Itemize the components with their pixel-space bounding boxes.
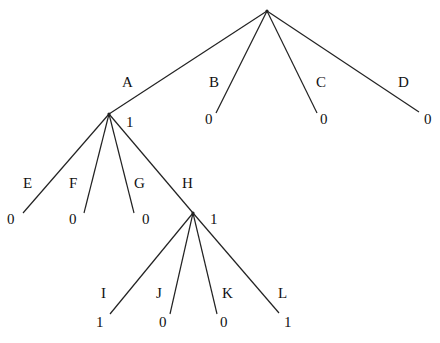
leaf-value-k: 0 <box>220 314 228 330</box>
leaf-value-l: 1 <box>284 314 292 330</box>
leaf-value-d: 0 <box>424 111 432 127</box>
edge-label-c: C <box>316 74 326 90</box>
edges-layer <box>23 11 419 314</box>
tree-drawing: AB0C0D0E0F0G0HI1J0K0L111 <box>0 0 440 343</box>
edge-k <box>193 213 217 314</box>
node-value-a: 1 <box>126 114 134 130</box>
node-value-h: 1 <box>210 211 218 227</box>
node-h <box>191 211 194 214</box>
edge-label-i: I <box>101 285 106 301</box>
labels-layer: AB0C0D0E0F0G0HI1J0K0L111 <box>7 74 432 330</box>
edge-label-a: A <box>122 74 133 90</box>
edge-label-b: B <box>209 74 219 90</box>
edge-label-f: F <box>69 175 77 191</box>
edge-label-e: E <box>23 175 32 191</box>
edge-d <box>267 11 419 112</box>
edge-a <box>109 11 267 114</box>
leaf-value-i: 1 <box>96 314 104 330</box>
edge-i <box>110 213 193 314</box>
edge-label-d: D <box>398 74 409 90</box>
edge-l <box>193 213 279 313</box>
leaf-value-j: 0 <box>159 314 167 330</box>
node-a <box>107 112 110 115</box>
edge-label-j: J <box>156 285 162 301</box>
root-node <box>265 9 268 12</box>
leaf-value-f: 0 <box>69 211 77 227</box>
game-tree-diagram: AB0C0D0E0F0G0HI1J0K0L111 <box>0 0 440 343</box>
leaf-value-c: 0 <box>320 111 328 127</box>
leaf-value-b: 0 <box>205 111 213 127</box>
edge-b <box>216 11 267 113</box>
edge-c <box>267 11 317 113</box>
edge-label-l: L <box>278 285 287 301</box>
edge-label-k: K <box>222 285 233 301</box>
edge-j <box>170 213 193 314</box>
leaf-value-g: 0 <box>142 211 150 227</box>
edge-label-g: G <box>134 175 145 191</box>
leaf-value-e: 0 <box>7 211 15 227</box>
edge-label-h: H <box>182 175 193 191</box>
